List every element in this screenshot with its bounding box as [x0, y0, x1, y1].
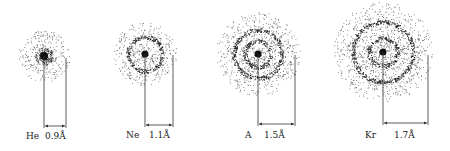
label-ar-symbol: A — [245, 131, 252, 140]
label-he-symbol: He — [26, 132, 39, 141]
density-patterns — [0, 0, 450, 151]
label-ne-radius: 1.1Å — [149, 131, 170, 140]
label-ar-radius: 1.5Å — [264, 131, 285, 140]
noble-gas-electron-density-figure: He 0.9Å Ne 1.1Å A 1.5Å Kr 1.7Å — [0, 0, 450, 151]
density-pattern-ar — [217, 12, 301, 95]
density-pattern-kr — [335, 2, 433, 102]
label-he-radius: 0.9Å — [45, 132, 66, 141]
label-kr-radius: 1.7Å — [394, 131, 415, 140]
density-pattern-he — [19, 31, 70, 81]
label-ne-symbol: Ne — [126, 131, 139, 140]
label-kr-symbol: Kr — [365, 131, 376, 140]
